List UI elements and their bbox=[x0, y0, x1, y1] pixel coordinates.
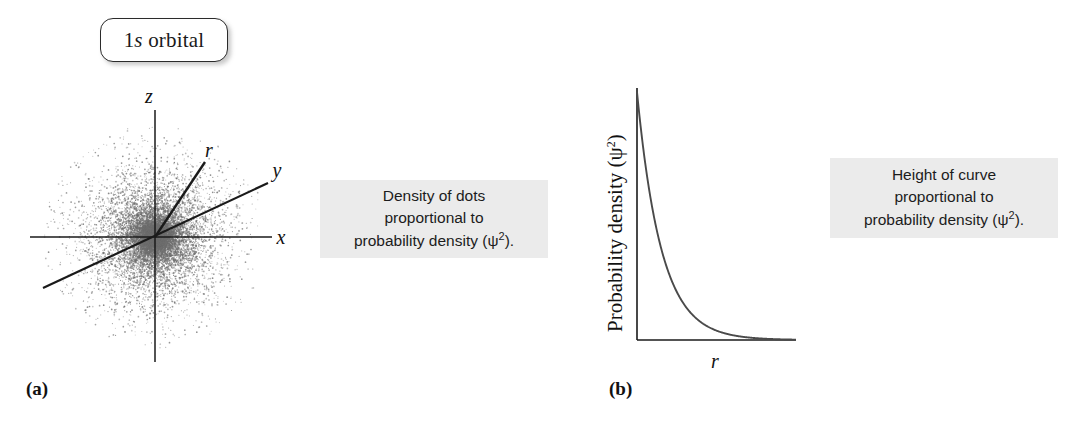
panel-letter-b: (b) bbox=[609, 378, 632, 400]
axis-label-x: x bbox=[276, 226, 286, 248]
annotation-dots-line3-pre: probability density (ψ bbox=[354, 233, 499, 250]
annotation-dots-line1: Density of dots bbox=[383, 185, 486, 207]
orbital-label-prefix: 1 bbox=[124, 28, 135, 52]
annotation-height-line3-pre: probability density (ψ bbox=[864, 212, 1009, 229]
annotation-dots-line2: proportional to bbox=[384, 207, 483, 229]
panel-letter-a: (a) bbox=[26, 378, 48, 400]
panel-b-probability-plot: r Probability density (ψ2) bbox=[600, 80, 830, 400]
axis-label-r: r bbox=[205, 139, 213, 161]
panel-a-electron-cloud: z x y r bbox=[0, 85, 320, 405]
axis-label-y: y bbox=[271, 159, 282, 182]
orbital-label-italic: s bbox=[134, 28, 142, 52]
orbital-label-text: 1s orbital bbox=[124, 28, 205, 53]
plot-ylabel: Probability density (ψ2) bbox=[603, 134, 627, 332]
plot-xlabel-r: r bbox=[711, 350, 719, 372]
plot-ylabel-tail: ) bbox=[603, 134, 627, 141]
orbital-label-badge: 1s orbital bbox=[100, 18, 228, 62]
annotation-density-of-dots: Density of dots proportional to probabil… bbox=[320, 180, 548, 258]
annotation-height-line1: Height of curve bbox=[892, 164, 996, 186]
axis-label-z: z bbox=[144, 85, 153, 107]
probability-density-curve bbox=[637, 92, 796, 340]
annotation-height-of-curve: Height of curve proportional to probabil… bbox=[830, 158, 1058, 238]
annotation-height-line2: proportional to bbox=[894, 186, 993, 208]
orbital-label-suffix: orbital bbox=[143, 28, 205, 52]
annotation-height-line3-post: ). bbox=[1015, 212, 1024, 229]
plot-ylabel-main: Probability density (ψ bbox=[603, 147, 627, 332]
annotation-height-line3: probability density (ψ2). bbox=[864, 208, 1024, 231]
annotation-dots-line3-post: ). bbox=[505, 233, 514, 250]
annotation-dots-line3: probability density (ψ2). bbox=[354, 229, 514, 252]
